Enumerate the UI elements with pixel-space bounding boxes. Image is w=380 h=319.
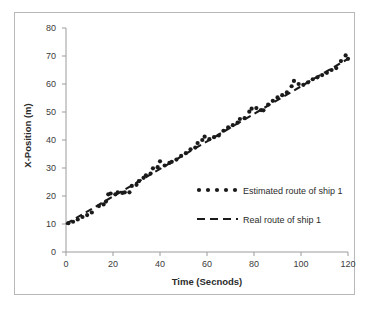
y-tick-label: 40 bbox=[32, 135, 56, 145]
y-tick-label: 50 bbox=[32, 107, 56, 117]
y-tick-label: 0 bbox=[32, 247, 56, 257]
x-tick-label: 20 bbox=[98, 259, 128, 269]
x-tick-label: 120 bbox=[333, 259, 363, 269]
x-tick-label: 60 bbox=[192, 259, 222, 269]
x-axis-title: Time (Secnods) bbox=[66, 276, 348, 287]
legend-markers bbox=[197, 188, 238, 219]
x-tick-label: 80 bbox=[239, 259, 269, 269]
y-tick-label: 60 bbox=[32, 79, 56, 89]
y-tick-label: 70 bbox=[32, 51, 56, 61]
legend-item-estimated-route: Estimated route of ship 1 bbox=[243, 186, 343, 196]
y-tick-label: 30 bbox=[32, 163, 56, 173]
series-real-route-line bbox=[66, 59, 348, 224]
x-tick-label: 100 bbox=[286, 259, 316, 269]
y-tick-label: 20 bbox=[32, 191, 56, 201]
y-axis-title: X-Position (m) bbox=[22, 76, 33, 196]
y-tick-label: 80 bbox=[32, 23, 56, 33]
y-tick-label: 10 bbox=[32, 219, 56, 229]
x-tick-label: 40 bbox=[145, 259, 175, 269]
chart-plot-canvas bbox=[0, 0, 380, 319]
legend-item-real-route: Real route of ship 1 bbox=[243, 215, 321, 225]
x-tick-label: 0 bbox=[51, 259, 81, 269]
